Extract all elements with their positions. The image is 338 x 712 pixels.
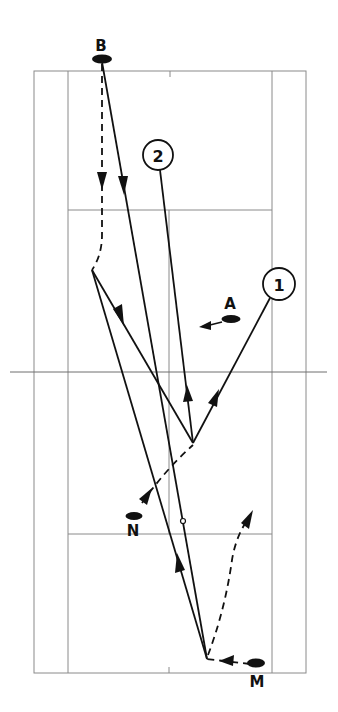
- move-m-recover: [208, 516, 250, 655]
- player-m: M: [247, 659, 265, 692]
- player-a-marker: [222, 315, 241, 323]
- badminton-court-diagram: B A N M 2 1: [0, 0, 338, 712]
- player-n-label: N: [127, 522, 140, 540]
- player-b-label: B: [95, 37, 106, 55]
- shuttle-contact-point: [181, 519, 186, 524]
- player-n: N: [126, 512, 143, 540]
- arrow-icon: [118, 176, 128, 195]
- shot-paths: [92, 62, 270, 659]
- player-b-marker: [92, 55, 112, 64]
- arrow-icon: [199, 321, 211, 330]
- player-a-label: A: [224, 295, 236, 313]
- move-b: [92, 64, 102, 270]
- arrow-icon: [139, 488, 152, 505]
- arrow-icon: [208, 389, 219, 407]
- player-b: B: [92, 37, 112, 64]
- player-n-marker: [126, 512, 143, 520]
- arrow-icon: [97, 172, 107, 190]
- arrow-icon: [183, 385, 193, 402]
- marker-1: 1: [263, 268, 295, 300]
- shot-v2-to-marker-2: [160, 170, 193, 443]
- player-a: A: [222, 295, 241, 323]
- player-m-label: M: [250, 673, 265, 691]
- player-m-marker: [247, 659, 265, 668]
- marker-1-number: 1: [273, 276, 284, 295]
- marker-2: 2: [143, 140, 173, 170]
- marker-2-number: 2: [152, 147, 163, 166]
- arrow-icon: [219, 655, 234, 666]
